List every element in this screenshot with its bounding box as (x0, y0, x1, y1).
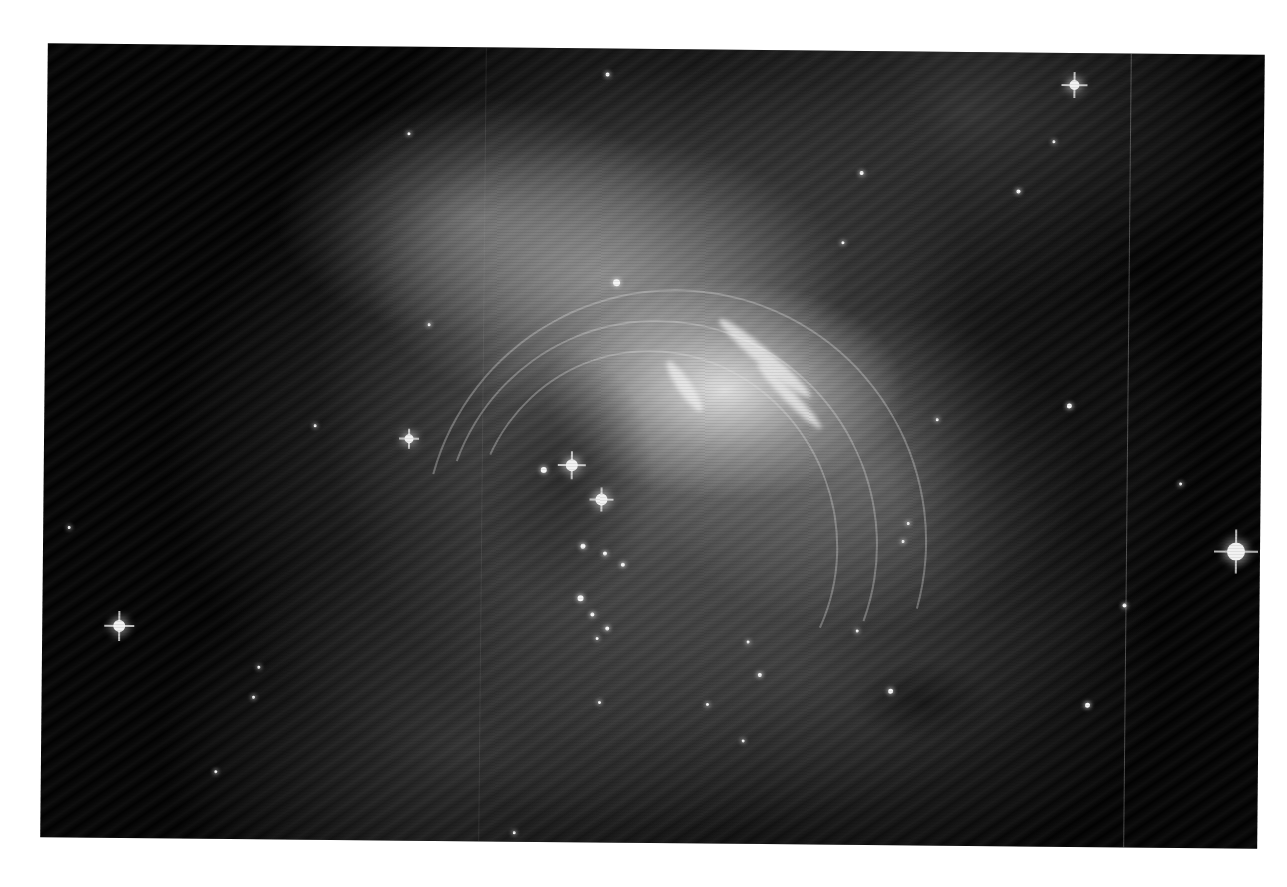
scanline-texture (40, 43, 1265, 849)
nebula-image (40, 43, 1265, 849)
